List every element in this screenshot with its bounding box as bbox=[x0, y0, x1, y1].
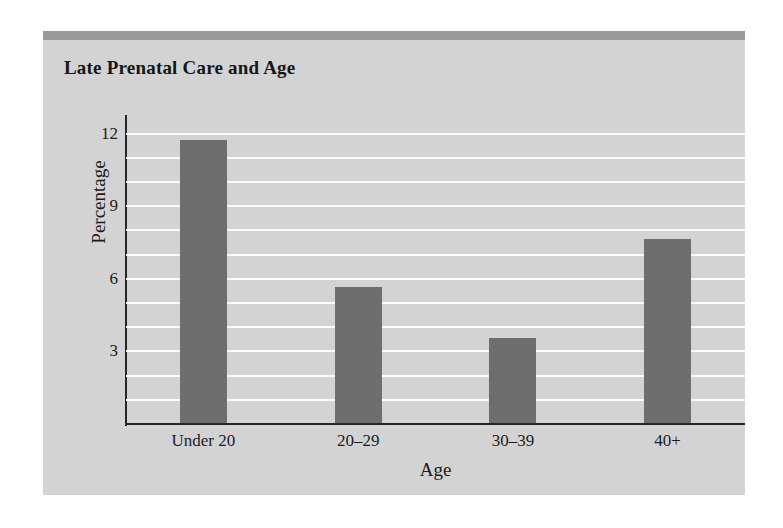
x-axis-line bbox=[125, 423, 745, 425]
x-axis-title: Age bbox=[126, 459, 745, 481]
x-tick-label: Under 20 bbox=[133, 431, 273, 451]
bar bbox=[180, 140, 227, 423]
bar bbox=[335, 287, 382, 423]
x-tick-label: 20–29 bbox=[288, 431, 428, 451]
chart-title: Late Prenatal Care and Age bbox=[64, 57, 295, 79]
bar bbox=[644, 239, 691, 423]
x-tick-label: 40+ bbox=[598, 431, 738, 451]
y-tick-label: 3 bbox=[78, 342, 118, 359]
chart-panel: Late Prenatal Care and Age Percentage Ag… bbox=[43, 31, 745, 495]
y-tick-label: 9 bbox=[78, 197, 118, 214]
y-tick-label: 12 bbox=[78, 125, 118, 142]
panel-header-band bbox=[43, 31, 745, 40]
plot-area bbox=[126, 133, 745, 423]
gridline bbox=[126, 133, 745, 135]
x-tick-label: 30–39 bbox=[443, 431, 583, 451]
bar bbox=[489, 338, 536, 423]
y-tick-label: 6 bbox=[78, 270, 118, 287]
